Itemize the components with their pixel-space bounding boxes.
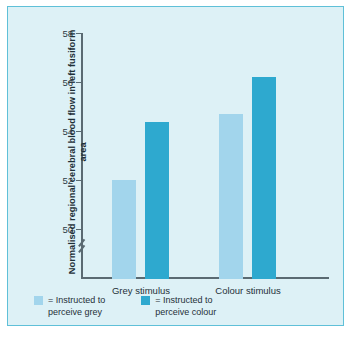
- y-tick-label-56: 56: [62, 77, 73, 88]
- y-axis-title-text: Normalised regional cerebral blood flow …: [67, 27, 90, 277]
- chart-figure: 58 56 54 52 50 Grey stimulus Colour stim…: [7, 6, 344, 326]
- bar-colour-stimulus-instructed-colour: [252, 77, 276, 279]
- plot-area: 58 56 54 52 50 Grey stimulus Colour stim…: [81, 27, 329, 279]
- y-tick-label-52: 52: [62, 175, 73, 186]
- legend-label-instructed-grey: = Instructed to perceive grey: [48, 295, 105, 318]
- y-tick-label-54: 54: [62, 126, 73, 137]
- legend-swatch-icon-light: [34, 296, 43, 305]
- bar-colour-stimulus-instructed-grey: [219, 114, 243, 279]
- legend-item-instructed-grey: = Instructed to perceive grey: [34, 295, 105, 325]
- y-axis-title: Normalised regional cerebral blood flow …: [69, 0, 99, 27]
- legend-label-instructed-colour: = Instructed to perceive colour: [155, 295, 216, 318]
- legend-item-instructed-colour: = Instructed to perceive colour: [141, 295, 216, 325]
- bar-grey-stimulus-instructed-colour: [145, 122, 169, 279]
- legend-swatch-icon-dark: [141, 296, 150, 305]
- chart-legend: = Instructed to perceive grey = Instruct…: [34, 295, 324, 325]
- y-tick-label-50: 50: [62, 224, 73, 235]
- y-tick-label-58: 58: [62, 28, 73, 39]
- bar-grey-stimulus-instructed-grey: [112, 180, 136, 279]
